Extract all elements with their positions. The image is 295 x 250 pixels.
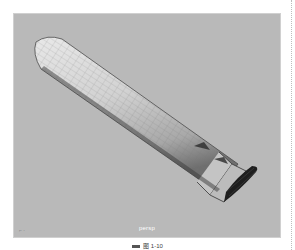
figure-caption: 图 1-10	[0, 241, 295, 250]
perspective-viewport[interactable]: ⌐ · persp	[13, 13, 281, 238]
page-margin-divider	[291, 0, 292, 250]
cylinder-model[interactable]	[14, 14, 281, 238]
axis-gizmo-icon: ⌐ ·	[19, 227, 25, 233]
figure-mark-icon	[132, 245, 140, 248]
camera-label: persp	[139, 225, 155, 231]
figure-caption-text: 图 1-10	[143, 243, 163, 249]
